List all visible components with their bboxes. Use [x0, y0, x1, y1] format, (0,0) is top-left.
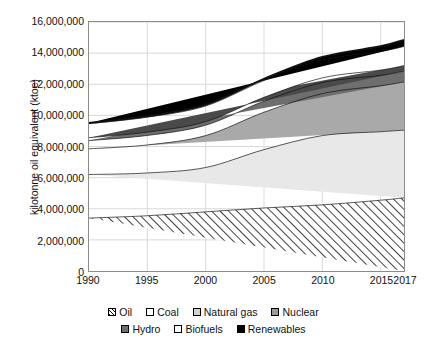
legend-item-renewables[interactable]: Renewables [237, 321, 306, 336]
legend-row-primary: OilCoalNatural gasNuclear [0, 303, 427, 320]
x-tick-label: 2005 [234, 275, 294, 286]
legend-label: Coal [157, 305, 179, 319]
legend-label: Oil [119, 305, 132, 319]
legend-label: Natural gas [204, 305, 258, 319]
legend-label: Biofuels [185, 322, 222, 336]
legend-label: Nuclear [282, 305, 318, 319]
legend-item-biofuels[interactable]: Biofuels [174, 321, 222, 336]
legend-label: Hydro [132, 322, 160, 336]
white-square-icon [146, 308, 154, 316]
legend-item-hydro[interactable]: Hydro [121, 321, 160, 336]
x-tick-label: 2000 [175, 275, 235, 286]
x-tick-label: 1995 [117, 275, 177, 286]
hatched-square-icon [108, 308, 116, 316]
chart-legend: OilCoalNatural gasNuclear HydroBiofuelsR… [0, 303, 427, 337]
legend-item-nuclear[interactable]: Nuclear [271, 304, 318, 319]
legend-row-secondary: HydroBiofuelsRenewables [0, 320, 427, 337]
area-band-coal [89, 130, 404, 198]
x-tick-label: 2017 [375, 275, 427, 286]
light-gray-square-icon [193, 308, 201, 316]
x-tick-label: 2010 [293, 275, 353, 286]
plot-area [88, 21, 405, 272]
stacked-area-svg [89, 22, 404, 271]
white-square-icon [174, 325, 182, 333]
dark-gray-square-icon [121, 325, 129, 333]
legend-item-oil[interactable]: Oil [108, 304, 132, 319]
chart-figure: kilotonne oil equivalent (ktoe) 02,000,0… [0, 0, 427, 350]
x-tick-label: 1990 [58, 275, 118, 286]
legend-item-natural-gas[interactable]: Natural gas [193, 304, 258, 319]
gray-square-icon [271, 308, 279, 316]
legend-item-coal[interactable]: Coal [146, 304, 179, 319]
black-square-icon [237, 325, 245, 333]
legend-label: Renewables [248, 322, 306, 336]
